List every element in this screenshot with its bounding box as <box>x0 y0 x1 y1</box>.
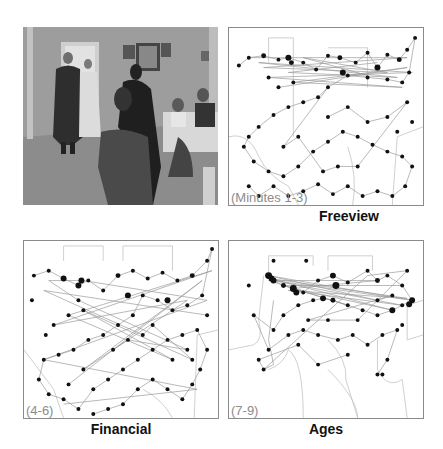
freeview-scanpath-plot <box>229 28 423 205</box>
ages-scanpath-panel: (7-9) <box>228 240 424 419</box>
financial-time-label: (4-6) <box>26 404 53 417</box>
ages-time-label: (7-9) <box>231 404 258 417</box>
freeview-title: Freeview <box>228 208 424 224</box>
freeview-scanpath-panel: (Minutes 1-3) <box>228 27 424 206</box>
painting-illustration <box>23 27 218 205</box>
financial-title: Financial <box>23 421 219 437</box>
ages-scanpath-plot <box>229 241 423 418</box>
financial-scanpath-panel: (4-6) <box>23 240 219 419</box>
saccade-lines <box>34 249 212 414</box>
ages-title: Ages <box>228 421 424 437</box>
freeview-time-label: (Minutes 1-3) <box>231 191 308 204</box>
painting-image <box>23 27 218 205</box>
fixation-dots <box>237 36 417 198</box>
financial-scanpath-plot <box>24 241 218 418</box>
